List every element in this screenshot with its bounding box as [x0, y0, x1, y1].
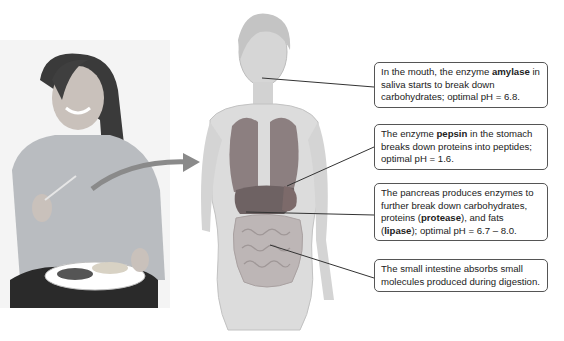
callout-stomach: The enzyme pepsin in the stomach breaks …: [374, 124, 548, 170]
callout-mouth: In the mouth, the enzyme amylase in sali…: [374, 62, 548, 108]
callout-small-intestine: The small intestine absorbs small molecu…: [374, 259, 548, 292]
leader-line-small-intestine: [270, 245, 374, 278]
arrow-head-icon: [183, 153, 200, 172]
leader-line-mouth: [262, 78, 374, 87]
digestion-diagram: In the mouth, the enzyme amylase in sali…: [0, 0, 564, 341]
leader-line-pancreas: [246, 212, 374, 215]
callout-pancreas: The pancreas produces enzymes to further…: [374, 183, 548, 241]
leader-line-stomach: [287, 147, 374, 186]
food-to-body-arrow: [92, 162, 188, 189]
